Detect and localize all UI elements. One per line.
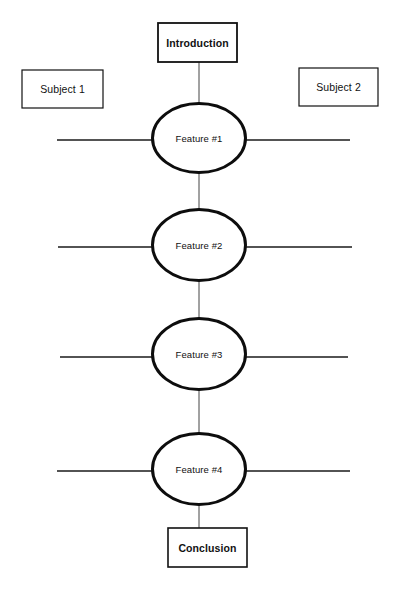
subject-2-box[interactable] [299, 68, 378, 106]
feature-3-ellipse[interactable] [153, 319, 246, 390]
introduction-box[interactable] [158, 23, 237, 62]
feature-1-ellipse[interactable] [153, 104, 246, 173]
feature-4-ellipse[interactable] [153, 434, 246, 505]
subject-1-box[interactable] [22, 70, 103, 108]
diagram-vector-layer [0, 0, 398, 591]
conclusion-box[interactable] [168, 528, 247, 567]
feature-row-lines [57, 140, 352, 471]
comparison-diagram-canvas: Introduction Subject 1 Subject 2 Feature… [0, 0, 398, 591]
feature-2-ellipse[interactable] [153, 210, 246, 281]
